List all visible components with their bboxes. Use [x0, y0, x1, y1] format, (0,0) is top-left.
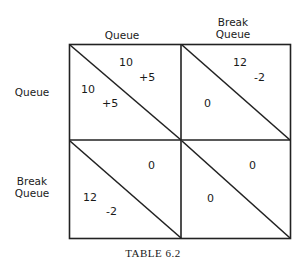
diagonal-cell-1-0: [70, 141, 181, 238]
col-header-queue-line1: Queue: [100, 29, 144, 41]
cell-1-0-lower-delta: -2: [106, 206, 117, 218]
cell-1-1-upper-value: 0: [249, 160, 256, 172]
cell-0-0-lower-delta: +5: [102, 98, 118, 110]
cell-1-0-upper-value: 0: [148, 160, 155, 172]
row-header-break-queue-line1: Break: [12, 175, 52, 187]
payoff-grid: [0, 0, 306, 264]
cell-1-1-lower-value: 0: [207, 193, 214, 205]
cell-0-0-lower-value: 10: [81, 84, 95, 96]
row-header-queue-line1: Queue: [12, 86, 52, 98]
cell-0-1-upper-value: 12: [233, 57, 247, 69]
cell-0-0-upper-delta: +5: [139, 72, 155, 84]
row-header-break-queue: Break Queue: [12, 175, 52, 199]
col-header-queue: Queue: [100, 29, 144, 41]
col-header-break-queue: Break Queue: [208, 16, 258, 40]
cell-1-0-lower-value: 12: [83, 192, 97, 204]
diagonal-cell-1-1: [182, 141, 290, 238]
cell-0-1-lower-value: 0: [204, 98, 211, 110]
row-header-queue: Queue: [12, 86, 52, 98]
row-header-break-queue-line2: Queue: [12, 187, 52, 199]
table-caption: TABLE 6.2: [0, 247, 306, 259]
col-header-break-queue-line1: Break: [208, 16, 258, 28]
col-header-break-queue-line2: Queue: [208, 28, 258, 40]
cell-0-0-upper-value: 10: [119, 57, 133, 69]
cell-0-1-upper-delta: -2: [254, 72, 265, 84]
